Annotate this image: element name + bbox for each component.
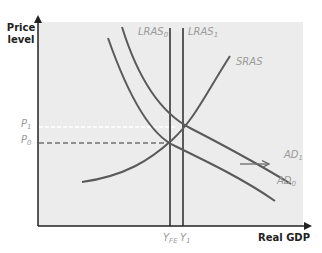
- y-axis-title-line2: level: [6, 34, 36, 46]
- ad1-label: AD1: [284, 150, 303, 162]
- y-axis-title: Price level: [6, 22, 36, 46]
- y-axis-title-line1: Price: [6, 22, 36, 34]
- lras1-label: LRAS1: [188, 27, 218, 39]
- sras-label: SRAS: [236, 57, 262, 67]
- ad0-label: AD0: [277, 176, 296, 188]
- yfe-tick-label: YFE: [163, 233, 178, 245]
- p0-tick-label: P0: [21, 135, 32, 147]
- lras0-label: LRAS0: [138, 27, 168, 39]
- x-axis-title: Real GDP: [258, 232, 310, 244]
- p1-tick-label: P1: [21, 119, 32, 131]
- y1-tick-label: Y1: [180, 233, 191, 245]
